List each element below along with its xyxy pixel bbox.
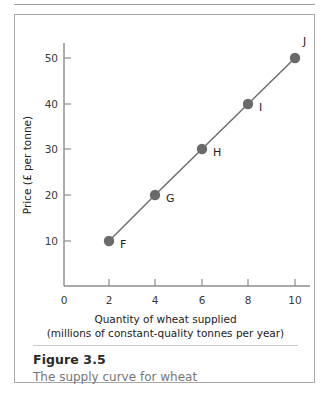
data-point-label-i: I (259, 101, 262, 114)
x-axis-title-line-1: Quantity of wheat supplied (15, 313, 316, 327)
x-tick-label: 6 (199, 294, 206, 306)
data-point-label-h: H (213, 146, 221, 159)
data-point-h (197, 144, 207, 154)
data-point-f (104, 236, 114, 246)
x-tick-label: 0 (61, 294, 68, 306)
data-point-label-f: F (120, 238, 126, 251)
figure-number: Figure 3.5 (33, 351, 303, 368)
caption-divider (33, 345, 298, 346)
chart-plot-area: 50 40 30 20 10 0 2 4 6 8 10 Price (£ per… (15, 15, 316, 315)
y-tick-label: 40 (45, 98, 58, 110)
figure-card: 50 40 30 20 10 0 2 4 6 8 10 Price (£ per… (14, 14, 315, 383)
x-tick-label: 4 (152, 294, 159, 306)
y-tick-label: 20 (45, 189, 58, 201)
y-tick-label: 30 (45, 143, 58, 155)
figure-caption: Figure 3.5 The supply curve for wheat (33, 351, 303, 386)
x-tick-label: 10 (288, 294, 301, 306)
x-tick-label: 2 (106, 294, 113, 306)
x-axis-title: Quantity of wheat supplied (millions of … (15, 313, 316, 340)
x-axis-ticks (109, 279, 295, 286)
y-axis-title: Price (£ per tonne) (21, 116, 33, 214)
x-tick-label: 8 (245, 294, 252, 306)
data-point-g (150, 190, 160, 200)
y-axis-ticks (64, 58, 71, 241)
data-point-j (290, 53, 300, 63)
data-point-label-g: G (166, 192, 175, 205)
x-axis-title-line-2: (millions of constant-quality tonnes per… (15, 327, 316, 341)
y-tick-label: 50 (45, 52, 58, 64)
data-point-label-j: J (302, 35, 306, 48)
top-divider (14, 4, 315, 5)
data-point-i (243, 99, 253, 109)
figure-description: The supply curve for wheat (33, 369, 303, 386)
y-tick-label: 10 (45, 235, 58, 247)
